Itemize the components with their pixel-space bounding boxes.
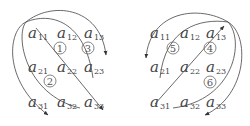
element-subscript: 22 bbox=[67, 67, 77, 76]
determinant-expansion-diagram: a11a12a13a21a22a23a31a32a33132 a11a12a13… bbox=[0, 0, 250, 126]
matrix-element-a32: a32 bbox=[180, 93, 200, 111]
matrix-element-a32: a32 bbox=[57, 93, 77, 111]
element-subscript: 22 bbox=[190, 67, 200, 76]
matrix-element-a21: a21 bbox=[150, 58, 170, 76]
element-subscript: 11 bbox=[160, 33, 170, 42]
marker-label-4: 4 bbox=[207, 43, 213, 54]
matrix-element-a31: a31 bbox=[28, 93, 48, 111]
element-subscript: 31 bbox=[38, 102, 48, 111]
element-subscript: 12 bbox=[67, 33, 77, 42]
matrix-element-a23: a23 bbox=[206, 58, 226, 76]
matrix-element-a11: a11 bbox=[28, 24, 48, 42]
element-subscript: 33 bbox=[216, 102, 226, 111]
marker-label-5: 5 bbox=[170, 43, 176, 54]
element-subscript: 33 bbox=[94, 102, 104, 111]
right-matrix: a11a12a13a21a22a23a31a32a33546 bbox=[150, 24, 226, 111]
element-subscript: 32 bbox=[190, 102, 200, 111]
element-subscript: 13 bbox=[94, 33, 104, 42]
element-subscript: 11 bbox=[38, 33, 48, 42]
matrix-element-a11: a11 bbox=[150, 24, 170, 42]
marker-label-2: 2 bbox=[47, 76, 53, 87]
matrix-element-a23: a23 bbox=[84, 58, 104, 76]
element-subscript: 21 bbox=[160, 67, 170, 76]
marker-label-3: 3 bbox=[85, 43, 91, 54]
matrix-element-a33: a33 bbox=[84, 93, 104, 111]
left-matrix: a11a12a13a21a22a23a31a32a33132 bbox=[28, 24, 104, 111]
matrix-element-a12: a12 bbox=[57, 24, 77, 42]
matrix-element-a21: a21 bbox=[28, 58, 48, 76]
matrix-element-a33: a33 bbox=[206, 93, 226, 111]
marker-label-1: 1 bbox=[57, 43, 63, 54]
element-subscript: 23 bbox=[216, 67, 226, 76]
element-subscript: 23 bbox=[94, 67, 104, 76]
matrix-element-a22: a22 bbox=[57, 58, 77, 76]
matrix-element-a22: a22 bbox=[180, 58, 200, 76]
diagram-canvas: a11a12a13a21a22a23a31a32a33132 a11a12a13… bbox=[0, 0, 250, 126]
element-subscript: 32 bbox=[67, 102, 77, 111]
element-subscript: 31 bbox=[160, 102, 170, 111]
matrix-element-a13: a13 bbox=[84, 24, 104, 42]
matrix-element-a31: a31 bbox=[150, 93, 170, 111]
element-subscript: 12 bbox=[190, 33, 200, 42]
marker-label-6: 6 bbox=[207, 77, 213, 88]
right-arrows bbox=[146, 13, 242, 115]
element-subscript: 13 bbox=[216, 33, 226, 42]
